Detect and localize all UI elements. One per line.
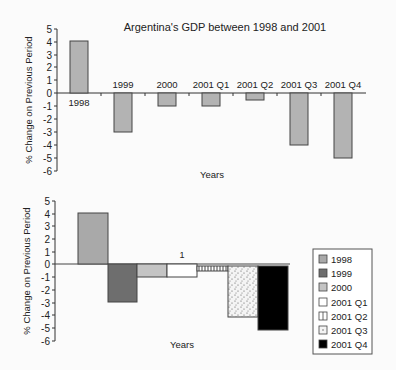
bar-2000 <box>137 264 167 277</box>
bar-2001-q3 <box>228 266 258 317</box>
legend-swatch-1999 <box>319 269 327 277</box>
svg-text:-4: -4 <box>43 140 52 151</box>
svg-text:1: 1 <box>46 75 52 86</box>
bar-annotation: 1 <box>179 250 184 260</box>
svg-text:2: 2 <box>46 62 52 73</box>
svg-text:3: 3 <box>46 50 52 61</box>
svg-text:2001 Q4: 2001 Q4 <box>325 79 361 90</box>
svg-text:-3: -3 <box>43 127 52 138</box>
svg-text:-6: -6 <box>43 166 52 177</box>
bottom-y-axis-label: % Change on Previous Period <box>21 207 32 334</box>
legend-swatch-1998 <box>319 255 327 263</box>
svg-text:3: 3 <box>44 221 50 232</box>
bar-2001-q2 <box>246 93 264 100</box>
bar-1998 <box>78 213 108 264</box>
svg-text:4: 4 <box>46 37 52 48</box>
svg-text:0: 0 <box>44 259 50 270</box>
svg-text:1998: 1998 <box>331 254 352 265</box>
top-y-tick-labels: 5 4 3 2 1 0 -1 -2 -3 -4 -5 -6 <box>43 24 52 177</box>
svg-text:2001 Q2: 2001 Q2 <box>237 79 273 90</box>
legend-swatch-2000 <box>319 283 327 291</box>
svg-text:2001 Q3: 2001 Q3 <box>331 325 367 336</box>
legend-swatch-2001-q4 <box>319 340 327 348</box>
bar-2001-q2 <box>197 266 228 271</box>
svg-text:2001 Q4: 2001 Q4 <box>331 339 367 350</box>
bar-1998 <box>70 41 88 93</box>
svg-text:2001 Q3: 2001 Q3 <box>281 79 317 90</box>
svg-text:0: 0 <box>46 88 52 99</box>
svg-text:2000: 2000 <box>156 79 177 90</box>
svg-text:1998: 1998 <box>68 97 89 108</box>
svg-text:2001 Q1: 2001 Q1 <box>331 297 367 308</box>
svg-text:-3: -3 <box>41 298 50 309</box>
bar-2001-q4 <box>334 93 352 158</box>
svg-text:-1: -1 <box>43 101 52 112</box>
svg-text:-5: -5 <box>41 323 50 334</box>
bottom-y-tick-labels: 5 4 3 2 1 0 -1 -2 -3 -4 -5 -6 <box>41 196 50 347</box>
svg-text:-6: -6 <box>41 336 50 347</box>
svg-text:-4: -4 <box>41 310 50 321</box>
svg-text:1999: 1999 <box>112 79 133 90</box>
svg-text:-5: -5 <box>43 153 52 164</box>
legend-swatch-2001-q1 <box>319 298 327 306</box>
top-chart: Argentina's GDP between 1998 and 2001 % … <box>23 21 366 180</box>
bar-1999 <box>108 264 137 302</box>
svg-text:2001 Q2: 2001 Q2 <box>331 311 367 322</box>
svg-text:2001 Q1: 2001 Q1 <box>193 79 229 90</box>
top-chart-title: Argentina's GDP between 1998 and 2001 <box>124 21 327 33</box>
svg-text:1: 1 <box>44 247 50 258</box>
svg-text:5: 5 <box>44 196 50 207</box>
bottom-chart: % Change on Previous Period 5 4 3 2 1 0 … <box>21 196 372 354</box>
bottom-bars <box>78 213 288 330</box>
bar-2001-q4 <box>258 266 288 330</box>
svg-text:-1: -1 <box>41 272 50 283</box>
svg-text:-2: -2 <box>41 285 50 296</box>
top-y-axis-label: % Change on Previous Period <box>23 36 34 163</box>
bar-2000 <box>158 93 176 106</box>
bar-2001-q1 <box>167 264 197 277</box>
svg-text:4: 4 <box>44 209 50 220</box>
top-bars <box>70 41 352 158</box>
bar-2001-q1 <box>202 93 220 106</box>
bar-1999 <box>114 93 132 132</box>
svg-text:2: 2 <box>44 234 50 245</box>
bottom-x-axis-label: Years <box>170 339 194 350</box>
legend: 1998 1999 2000 2001 Q1 2001 Q2 2001 Q3 2… <box>313 249 372 354</box>
svg-text:5: 5 <box>46 24 52 35</box>
svg-text:2000: 2000 <box>331 282 352 293</box>
top-x-axis-label: Years <box>200 169 224 180</box>
svg-text:1999: 1999 <box>331 268 352 279</box>
bar-2001-q3 <box>290 93 308 145</box>
figure: Argentina's GDP between 1998 and 2001 % … <box>0 0 396 370</box>
svg-text:-2: -2 <box>43 114 52 125</box>
